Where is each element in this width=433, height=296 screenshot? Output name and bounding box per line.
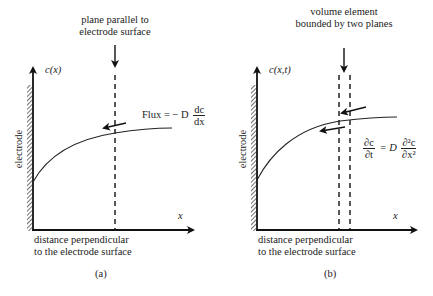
flux-out-arrow-b [321, 127, 345, 131]
concentration-curve-a [33, 128, 172, 182]
electrode-label-b: electrode [237, 124, 249, 174]
y-axis-label-a: c(x) [45, 64, 61, 76]
y-axis-label-b: c(x,t) [269, 64, 291, 76]
distance-label-b: distance perpendicular to the electrode … [258, 234, 356, 258]
flux-in-arrow-b [342, 107, 366, 113]
distance-label-a-line1: distance perpendicular [34, 234, 132, 246]
caption-a: (a) [95, 268, 107, 280]
distance-label-b-line1: distance perpendicular [258, 234, 356, 246]
flux-equation-a: Flux = − D dc dx [142, 104, 207, 127]
diffusion-rhs-fraction: ∂²c ∂x² [401, 137, 416, 160]
distance-label-a: distance perpendicular to the electrode … [34, 234, 132, 258]
flux-equation-lhs: Flux = − D [142, 109, 189, 120]
plane-label-a-line2: electrode surface [65, 26, 165, 38]
diffusion-lhs-fraction: ∂c ∂t [363, 137, 375, 160]
diffusion-equation-mid: = D [379, 142, 396, 153]
volume-label-b-line2: bounded by two planes [289, 18, 399, 30]
plane-label-a: plane parallel to electrode surface [65, 14, 165, 38]
plane-label-a-line1: plane parallel to [65, 14, 165, 26]
flux-fraction-denominator: dx [193, 116, 205, 127]
diffusion-lhs-denominator: ∂t [363, 149, 375, 160]
electrode-hatch-b [251, 85, 256, 231]
electrode-hatch-a [27, 85, 32, 231]
distance-label-a-line2: to the electrode surface [34, 246, 132, 258]
flux-equation-fraction: dc dx [193, 104, 205, 127]
diffusion-lhs-numerator: ∂c [363, 137, 375, 149]
flux-fraction-numerator: dc [193, 104, 205, 116]
diffusion-rhs-denominator: ∂x² [401, 149, 416, 160]
volume-label-b-line1: volume element [289, 6, 399, 18]
caption-b: (b) [324, 268, 336, 280]
x-axis-label-a: x [178, 210, 183, 222]
x-axis-label-b: x [393, 210, 398, 222]
volume-label-b: volume element bounded by two planes [289, 6, 399, 30]
distance-label-b-line2: to the electrode surface [258, 246, 356, 258]
diffusion-equation-b: ∂c ∂t = D ∂²c ∂x² [361, 137, 418, 160]
diffusion-rhs-numerator: ∂²c [401, 137, 416, 149]
electrode-label-a: electrode [13, 124, 25, 174]
